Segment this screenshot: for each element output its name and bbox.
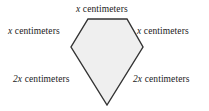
side-label-lower-right-unit-text: centimeters [145, 74, 190, 84]
side-label-upper-left-unit-text: centimeters [15, 26, 60, 36]
side-label-lower-left-unit-text: centimeters [25, 74, 70, 84]
side-label-lower-left: 2x centimeters [13, 75, 70, 85]
side-label-upper-left: x centimeters [8, 27, 60, 37]
side-label-upper-right-unit-text: centimeters [144, 26, 189, 36]
side-label-top-unit-text: centimeters [83, 4, 128, 14]
side-label-top: x centimeters [76, 5, 128, 15]
side-label-lower-right: 2x centimeters [133, 75, 190, 85]
side-label-lower-right-variable: 2x [133, 74, 142, 84]
pentagon-shape [0, 0, 209, 111]
pentagon-outline [71, 19, 143, 105]
geometry-figure: x centimeters x centimeters x centimeter… [0, 0, 209, 111]
side-label-upper-right: x centimeters [137, 27, 189, 37]
side-label-lower-left-variable: 2x [13, 74, 22, 84]
